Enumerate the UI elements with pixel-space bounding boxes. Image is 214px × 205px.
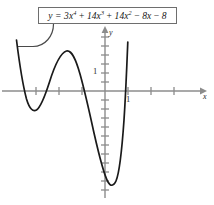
- x-axis-label: x: [203, 92, 207, 101]
- y-axis-label: y: [109, 28, 113, 37]
- y-axis-arrowhead: [102, 26, 109, 33]
- leader-line: [18, 24, 54, 47]
- y-axis-tick-label-1: 1: [93, 66, 97, 76]
- plot-canvas: [0, 0, 214, 205]
- x-axis-tick-label-1: 1: [126, 94, 130, 104]
- quartic-curve: [17, 40, 128, 185]
- equation-text: y = 3x4 + 14x3 + 14x2 − 8x − 8: [48, 11, 166, 21]
- graph-figure: y = 3x4 + 14x3 + 14x2 − 8x − 8 y x 1 1: [0, 0, 214, 205]
- equation-label-box: y = 3x4 + 14x3 + 14x2 − 8x − 8: [38, 7, 177, 24]
